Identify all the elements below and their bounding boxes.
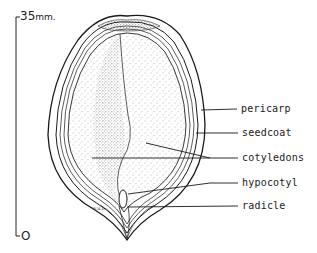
cotyledons (68, 33, 186, 212)
label-cotyledons: cotyledons (242, 152, 304, 163)
scale-bar (16, 17, 20, 236)
artist-initials: w.u.l. (92, 205, 105, 211)
label-radicle: radicle (242, 200, 286, 211)
scale-top-label: 35mm. (20, 9, 56, 23)
label-pericarp: pericarp (241, 103, 291, 114)
label-hypocotyl: hypocotyl (242, 177, 298, 188)
label-seedcoat: seedcoat (242, 127, 292, 138)
hypocotyl (119, 190, 127, 208)
scale-bottom-label: O (21, 229, 30, 243)
